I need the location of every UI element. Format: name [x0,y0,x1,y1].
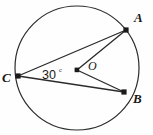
geometry-figure: A B C O 30 c [0,0,153,135]
point-marker-C [15,73,20,78]
point-marker-B [121,89,126,94]
segment-radius-OA [77,30,126,70]
angle-value-label: 30 [42,68,56,82]
point-label-B: B [132,91,142,106]
point-label-O: O [88,59,97,73]
point-label-A: A [133,10,143,25]
point-label-C: C [2,70,11,85]
point-marker-O [75,68,80,73]
geometry-canvas: A B C O 30 c [0,0,153,135]
point-marker-A [123,27,128,32]
angle-unit-label: c [59,66,62,74]
segment-chord-CA [18,30,126,76]
